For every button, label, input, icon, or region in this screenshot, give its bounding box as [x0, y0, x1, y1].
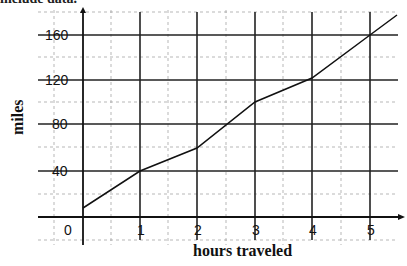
svg-text:160: 160 — [45, 27, 69, 43]
svg-text:3: 3 — [252, 222, 260, 238]
data-line — [83, 15, 397, 208]
svg-text:5: 5 — [367, 222, 375, 238]
svg-text:0: 0 — [64, 222, 72, 238]
y-tick-labels: 160 120 80 40 — [45, 27, 69, 179]
x-axis-arrow-icon — [398, 214, 405, 220]
svg-text:40: 40 — [52, 163, 68, 179]
svg-text:80: 80 — [52, 116, 68, 132]
y-axis-arrow-icon — [80, 7, 86, 13]
svg-text:2: 2 — [194, 222, 202, 238]
axes — [38, 12, 398, 245]
svg-text:1: 1 — [137, 222, 145, 238]
x-tick-labels: 0 1 2 3 4 5 — [64, 222, 375, 238]
svg-text:4: 4 — [309, 222, 317, 238]
major-gridlines — [38, 12, 398, 240]
svg-text:120: 120 — [45, 72, 69, 88]
minor-gridlines — [38, 10, 398, 245]
x-axis-label: hours traveled — [193, 242, 292, 259]
y-axis-label: miles — [9, 99, 26, 135]
line-chart: 160 120 80 40 0 1 2 3 4 5 hours traveled… — [0, 0, 407, 266]
